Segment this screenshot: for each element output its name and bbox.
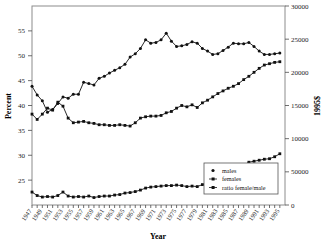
legend-label: males xyxy=(222,167,237,174)
series-marker xyxy=(175,107,178,110)
series-marker xyxy=(46,107,49,110)
series-marker xyxy=(263,64,266,67)
series-marker xyxy=(82,81,85,84)
x-axis-title: Year xyxy=(150,232,166,241)
chart-legend: malesfemalesratio female/male xyxy=(204,163,278,194)
series-marker xyxy=(62,105,65,108)
y-axis-right-tick-label: 0 xyxy=(291,202,295,210)
series-marker xyxy=(139,47,142,50)
series-marker xyxy=(36,194,39,197)
series-marker xyxy=(216,52,219,55)
series-marker xyxy=(41,99,44,102)
series-marker xyxy=(36,118,39,121)
series-marker xyxy=(62,191,65,194)
series-marker xyxy=(268,62,271,65)
legend-marker-ratio-female-male xyxy=(212,186,215,189)
y-axis-right-tick-label: 10000 xyxy=(291,135,309,143)
series-marker xyxy=(103,75,106,78)
series-marker xyxy=(201,183,204,186)
series-marker xyxy=(160,185,163,188)
series-marker xyxy=(263,158,266,161)
series-marker xyxy=(93,122,96,125)
series-marker xyxy=(278,52,281,55)
series-marker xyxy=(268,157,271,160)
series-marker xyxy=(237,82,240,85)
series-marker xyxy=(160,114,163,117)
series-marker xyxy=(82,120,85,123)
series-marker xyxy=(87,195,90,198)
series-marker xyxy=(273,155,276,158)
legend-label: females xyxy=(222,175,242,182)
series-marker xyxy=(41,196,44,199)
series-marker xyxy=(31,113,34,116)
series-marker xyxy=(77,93,80,96)
series-marker xyxy=(113,69,116,72)
y-axis-right-tick-label: 50000 xyxy=(291,168,309,176)
series-marker xyxy=(211,53,214,56)
series-marker xyxy=(36,93,39,96)
series-marker xyxy=(103,195,106,198)
y-axis-right-tick-label: 25000 xyxy=(291,36,309,44)
series-marker xyxy=(196,42,199,45)
y-axis-right-title: 1995$ xyxy=(313,96,322,116)
series-marker xyxy=(180,104,183,107)
series-marker xyxy=(175,45,178,48)
series-marker xyxy=(46,195,49,198)
series-marker xyxy=(273,61,276,64)
series-marker xyxy=(180,184,183,187)
series-marker xyxy=(253,71,256,74)
series-marker xyxy=(118,123,121,126)
series-marker xyxy=(165,184,168,187)
y-axis-left-tick-label: 25 xyxy=(18,177,26,185)
series-marker xyxy=(67,97,70,100)
series-marker xyxy=(237,42,240,45)
series-marker xyxy=(98,77,101,80)
series-marker xyxy=(77,121,80,124)
series-marker xyxy=(51,196,54,199)
series-marker xyxy=(191,103,194,106)
series-marker xyxy=(170,110,173,113)
series-marker xyxy=(98,195,101,198)
series-marker xyxy=(108,195,111,198)
series-marker xyxy=(185,105,188,108)
series-marker xyxy=(227,46,230,49)
legend-marker-males xyxy=(211,169,214,172)
series-marker xyxy=(278,60,281,63)
series-marker xyxy=(87,121,90,124)
series-marker xyxy=(144,38,147,41)
series-marker xyxy=(222,90,225,93)
series-marker xyxy=(222,49,225,52)
series-marker xyxy=(134,190,137,193)
series-marker xyxy=(149,115,152,118)
series-marker xyxy=(72,93,75,96)
series-marker xyxy=(253,160,256,163)
y-axis-right-tick-label: 20000 xyxy=(291,69,309,77)
series-marker xyxy=(247,41,250,44)
series-marker xyxy=(124,192,127,195)
chart-svg: 25303540455055 0500001000015000200002500… xyxy=(0,0,329,243)
series-marker xyxy=(41,113,44,116)
series-marker xyxy=(155,115,158,118)
y-axis-left-tick-label: 45 xyxy=(18,77,26,85)
series-marker xyxy=(247,75,250,78)
y-axis-left-tick-label: 30 xyxy=(18,152,26,160)
series-marker xyxy=(149,42,152,45)
series-marker xyxy=(206,50,209,53)
series-marker xyxy=(278,152,281,155)
series-marker xyxy=(206,99,209,102)
series-marker xyxy=(273,52,276,55)
series-marker xyxy=(129,56,132,59)
series-marker xyxy=(77,195,80,198)
series-marker xyxy=(129,191,132,194)
series-marker xyxy=(258,67,261,70)
series-marker xyxy=(242,42,245,45)
series-marker xyxy=(155,185,158,188)
series-marker xyxy=(175,184,178,187)
series-marker xyxy=(108,71,111,74)
series-marker xyxy=(139,189,142,192)
series-marker xyxy=(160,38,163,41)
series-marker xyxy=(67,117,70,120)
series-marker xyxy=(258,159,261,162)
series-marker xyxy=(108,124,111,127)
legend-marker-females xyxy=(212,178,215,181)
